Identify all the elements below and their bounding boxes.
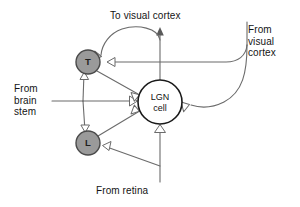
from-brain-stem-pathway (52, 72, 138, 133)
node-t-cell[interactable]: T (76, 50, 100, 74)
label-from-visual-cortex: From visual cortex (248, 24, 276, 59)
cortex-branch-to-t (108, 45, 247, 62)
retina-to-lgn-terminal-icon (155, 125, 166, 133)
t-cell-label: T (85, 56, 91, 67)
label-from-retina: From retina (96, 185, 148, 197)
collateral-arc (101, 27, 160, 55)
lgn-cell-label-line1: LGN (151, 92, 170, 102)
t-to-lgn-pathway (97, 71, 140, 101)
cortex-branch-to-lgn (191, 45, 247, 107)
label-from-brain-stem: From brain stem (14, 83, 38, 118)
from-retina-pathway (103, 125, 166, 183)
node-l-cell[interactable]: L (76, 131, 100, 155)
l-to-lgn-wire (98, 112, 138, 136)
axon-collateral-to-t (94, 27, 160, 61)
label-to-visual-cortex: To visual cortex (110, 10, 181, 22)
diagram-canvas: T L LGN cell To visual cortex From visua… (0, 0, 300, 207)
node-lgn-cell[interactable]: LGN cell (138, 80, 182, 124)
cortex-to-t-terminal-icon (107, 58, 115, 67)
t-to-lgn-wire (97, 71, 138, 94)
retina-branch-to-l (104, 146, 160, 166)
lgn-cell-label-line2: cell (153, 103, 167, 113)
l-cell-label: L (85, 137, 91, 148)
l-to-lgn-pathway (98, 105, 140, 136)
lgn-cell-circle[interactable] (138, 80, 182, 124)
retina-to-l-terminal-icon (103, 142, 112, 151)
